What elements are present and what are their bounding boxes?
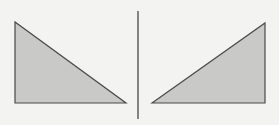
triangles-diagram bbox=[0, 0, 279, 125]
